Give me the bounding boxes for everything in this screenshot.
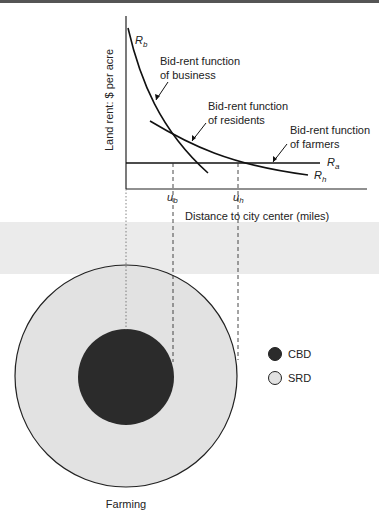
bid-rent-diagram: Land rent: $ per acre Rb Ra Rh Bid-rent … [0,0,379,520]
farmers-annotation-line1: Bid-rent function [290,124,370,136]
uh-tick-label: uh [233,191,244,205]
farmers-annotation-line2: of farmers [290,138,340,150]
ra-label: Ra [327,156,340,171]
cbd-legend-label: CBD [288,348,311,360]
x-axis-label: Distance to city center (miles) [185,210,329,222]
farming-label: Farming [106,498,146,510]
rb-label: Rb [135,34,148,49]
cbd-circle [78,329,174,425]
business-annotation-line1: Bid-rent function [160,55,240,67]
residents-annotation-line2: of residents [208,114,265,126]
y-axis-label: Land rent: $ per acre [103,49,115,151]
business-annotation-line2: of business [160,69,216,81]
srd-legend-label: SRD [288,372,311,384]
residents-annotation-line1: Bid-rent function [208,100,288,112]
srd-legend-swatch [269,372,282,385]
business-curve [128,28,208,173]
cbd-legend-swatch [269,348,282,361]
rh-label: Rh [314,169,327,184]
